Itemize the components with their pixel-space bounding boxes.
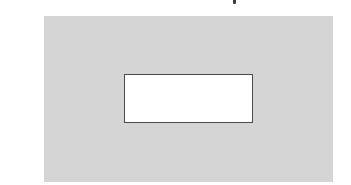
- cropped-text-fragment: [233, 0, 236, 4]
- inner-white-rectangle: [124, 74, 253, 123]
- diagram-canvas: [0, 0, 351, 185]
